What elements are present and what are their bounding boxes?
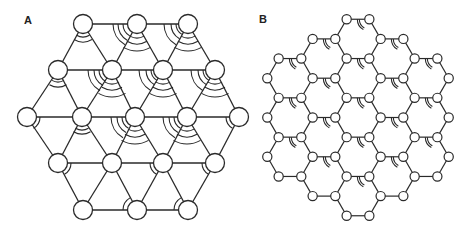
angle-arc (180, 129, 194, 131)
honeycomb-node (444, 74, 453, 83)
lattice-node (49, 61, 68, 80)
lattice-node (49, 154, 68, 173)
honeycomb-node (342, 93, 351, 102)
honeycomb-node (331, 192, 340, 201)
angle-arc (127, 41, 147, 44)
honeycomb-node (365, 15, 374, 24)
honeycomb-node (342, 15, 351, 24)
angle-arc (205, 87, 225, 90)
angle-arc (130, 36, 144, 38)
honeycomb-node (376, 192, 385, 201)
lattice-node (206, 154, 225, 173)
angle-arc (202, 93, 229, 97)
lattice-node (126, 108, 145, 127)
honeycomb-node (263, 152, 272, 161)
angle-arc (99, 93, 126, 97)
lattice-node (73, 108, 92, 127)
honeycomb-node (433, 93, 442, 102)
honeycomb-node (331, 152, 340, 161)
angle-arc (105, 82, 119, 84)
lattice-node (128, 201, 147, 220)
honeycomb-node (297, 54, 306, 63)
honeycomb-node (274, 54, 283, 63)
honeycomb-node (376, 34, 385, 43)
angle-arc (128, 129, 142, 131)
angle-arc (156, 82, 170, 84)
honeycomb-node (365, 54, 374, 63)
angle-arc (208, 82, 222, 84)
honeycomb-node (444, 152, 453, 161)
honeycomb-node (399, 34, 408, 43)
honeycomb-node (365, 93, 374, 102)
honeycomb-node (342, 172, 351, 181)
honeycomb-node (444, 113, 453, 122)
honeycomb-node (308, 74, 317, 83)
lattice-node (154, 61, 173, 80)
angle-arc (174, 140, 201, 144)
honeycomb-node (308, 34, 317, 43)
panel-b-honeycomb-lattice (263, 15, 454, 221)
honeycomb-node (297, 172, 306, 181)
angle-arc (125, 134, 145, 137)
honeycomb-node (297, 133, 306, 142)
honeycomb-node (342, 211, 351, 220)
angle-arc (178, 41, 198, 44)
panel-a-label: A (24, 14, 32, 26)
honeycomb-node (263, 74, 272, 83)
angle-arc (102, 87, 122, 90)
angle-arc (76, 128, 89, 130)
angle-arc (122, 140, 149, 144)
honeycomb-node (365, 211, 374, 220)
honeycomb-node (274, 133, 283, 142)
honeycomb-node (331, 113, 340, 122)
angle-arc (74, 40, 92, 42)
honeycomb-node (399, 192, 408, 201)
lattice-node (74, 15, 93, 34)
lattice-diagram (0, 0, 473, 242)
honeycomb-node (297, 93, 306, 102)
honeycomb-node (399, 74, 408, 83)
lattice-node (206, 61, 225, 80)
honeycomb-node (342, 133, 351, 142)
honeycomb-node (342, 54, 351, 63)
honeycomb-node (433, 172, 442, 181)
angle-arc (74, 132, 91, 134)
lattice-node (230, 108, 249, 127)
lattice-node (18, 108, 37, 127)
lattice-node (103, 61, 122, 80)
figure: A B (0, 0, 473, 242)
honeycomb-node (410, 54, 419, 63)
lattice-node (154, 154, 173, 173)
lattice-node (179, 201, 198, 220)
honeycomb-node (365, 133, 374, 142)
honeycomb-node (399, 113, 408, 122)
honeycomb-node (365, 172, 374, 181)
angle-arc (150, 93, 177, 97)
honeycomb-node (274, 93, 283, 102)
honeycomb-node (263, 113, 272, 122)
lattice-node (103, 154, 122, 173)
honeycomb-node (399, 152, 408, 161)
panel-b-label: B (259, 13, 267, 25)
honeycomb-node (308, 113, 317, 122)
angle-arc (153, 87, 173, 90)
honeycomb-node (331, 74, 340, 83)
honeycomb-node (308, 192, 317, 201)
angle-arc (52, 80, 64, 82)
angle-arc (177, 134, 197, 137)
honeycomb-node (274, 172, 283, 181)
angle-arc (181, 36, 195, 38)
honeycomb-node (410, 133, 419, 142)
honeycomb-node (331, 34, 340, 43)
angle-arc (77, 35, 90, 37)
angle-arc (175, 47, 202, 51)
honeycomb-node (376, 74, 385, 83)
angle-arc (50, 85, 67, 87)
honeycomb-node (433, 54, 442, 63)
honeycomb-node (308, 152, 317, 161)
lattice-node (179, 15, 198, 34)
honeycomb-node (410, 172, 419, 181)
lattice-node (178, 108, 197, 127)
honeycomb-node (376, 152, 385, 161)
lattice-node (128, 15, 147, 34)
